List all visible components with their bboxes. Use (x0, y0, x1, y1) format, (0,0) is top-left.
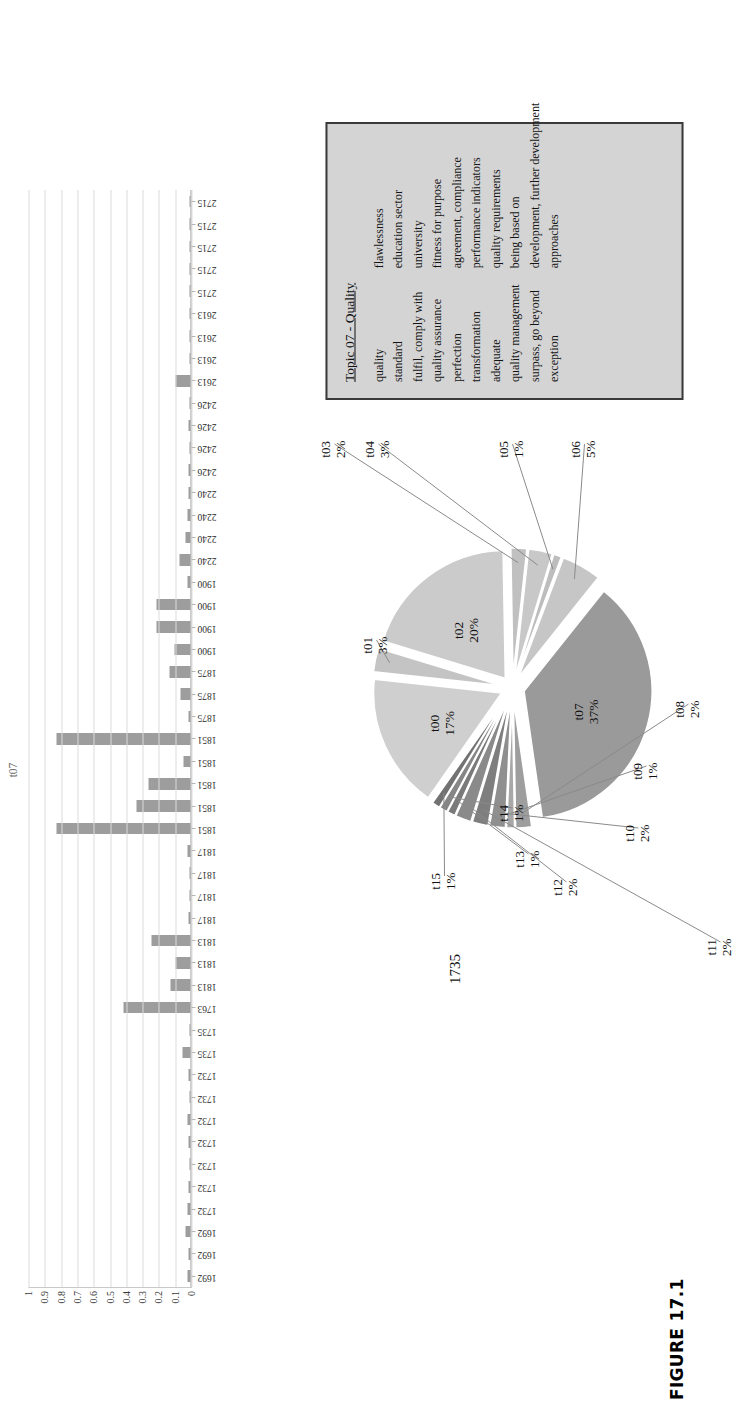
x-axis-tick (191, 649, 195, 650)
bar (151, 935, 190, 947)
pie-slice-label: t151% (428, 873, 457, 890)
bar (185, 1226, 190, 1238)
figure-canvas: t07 00.10.20.30.40.50.60.70.80.91 169216… (0, 0, 749, 1408)
x-axis-tick (191, 1007, 195, 1008)
x-axis-tick (191, 940, 195, 941)
x-axis-tick-label: 1900 (197, 578, 216, 588)
pie-slice-percent: 3% (374, 637, 389, 654)
x-axis-tick-label: 1732 (197, 1205, 216, 1215)
x-axis-tick (191, 492, 195, 493)
pie-slice-percent: 37% (585, 699, 600, 724)
pie-slice-name: t08 (671, 701, 686, 718)
grid-line (158, 190, 159, 1287)
x-axis-tick (191, 1052, 195, 1053)
x-axis-tick (191, 1074, 195, 1075)
bar (189, 196, 190, 208)
x-axis-tick-label: 2240 (197, 556, 216, 566)
pie-leader-line (334, 444, 518, 563)
topic-keyword-box: Topic 07 - Quality qualitystandardfulfil… (325, 122, 683, 400)
grid-line (44, 190, 45, 1287)
y-axis-tick-label: 0.8 (56, 1291, 66, 1304)
x-axis-tick (191, 783, 195, 784)
topic-term: university (408, 103, 427, 269)
grid-line (28, 190, 29, 1287)
x-axis-tick-label: 2426 (197, 399, 216, 409)
pie-slice-name: t05 (495, 441, 510, 458)
x-axis-tick-label: 1817 (197, 892, 216, 902)
topic-term: quality assurance (427, 284, 446, 382)
bar (188, 420, 190, 432)
topic-term: performance indicators (466, 103, 485, 269)
x-axis-tick-label: 2613 (197, 310, 216, 320)
x-axis-tick (191, 470, 195, 471)
x-axis-tick (191, 1119, 195, 1120)
x-axis-tick (191, 246, 195, 247)
x-axis-tick (191, 515, 195, 516)
y-axis-tick-label: 1 (23, 1291, 33, 1296)
pie-slice-name: t09 (629, 763, 644, 780)
x-axis-tick-label: 2426 (197, 466, 216, 476)
pie-slice-name: t06 (567, 441, 582, 458)
figure-caption: FIGURE 17.1 (666, 1278, 686, 1400)
bar (136, 800, 190, 812)
bar (189, 1159, 190, 1171)
bar (189, 330, 190, 342)
x-axis-tick (191, 313, 195, 314)
x-axis-tick (191, 1141, 195, 1142)
x-axis-tick-label: 1692 (197, 1228, 216, 1238)
bar (185, 532, 190, 544)
bar (189, 442, 190, 454)
topic-box-title: Topic 07 - Quality (341, 140, 357, 382)
x-axis-tick-label: 1692 (197, 1250, 216, 1260)
pie-slice-name: t13 (511, 851, 526, 868)
x-axis-tick-label: 1732 (197, 1160, 216, 1170)
x-axis-tick-label: 1817 (197, 914, 216, 924)
x-axis-tick (191, 604, 195, 605)
pie-slice-percent: 2% (332, 441, 347, 458)
topic-term: exception (544, 284, 563, 382)
grid-line (110, 190, 111, 1287)
bar (183, 756, 190, 768)
x-axis-tick-label: 2715 (197, 220, 216, 230)
x-axis-tick (191, 1097, 195, 1098)
pie-slice-percent: 20% (465, 618, 480, 643)
pie-leader-line (443, 793, 444, 876)
pie-slice-label: t032% (318, 441, 347, 458)
x-axis-tick (191, 403, 195, 404)
bar (187, 576, 190, 588)
bar (189, 285, 190, 297)
pie-svg (300, 418, 730, 1018)
x-axis-tick-label: 1851 (197, 735, 216, 745)
bar (187, 1114, 190, 1126)
pie-slice-percent: 2% (636, 825, 651, 842)
bar (56, 823, 190, 835)
bar (189, 890, 190, 902)
pie-slice-label: t0737% (570, 699, 600, 724)
x-axis-tick (191, 873, 195, 874)
bar (175, 375, 190, 387)
topic-box-left-column: qualitystandardfulfil, comply withqualit… (369, 284, 563, 382)
bar (188, 487, 190, 499)
x-axis-tick-label: 2613 (197, 377, 216, 387)
x-axis-tick-label: 1735 (197, 1026, 216, 1036)
grid-line (175, 190, 176, 1287)
x-axis-tick-label: 1900 (197, 601, 216, 611)
pie-chart: 1735 t0017%t013%t0220%t032%t043%t051%t06… (300, 418, 730, 1018)
bar (189, 1024, 190, 1036)
bar (188, 1248, 190, 1260)
x-axis-tick (191, 291, 195, 292)
x-axis-tick-label: 1732 (197, 1093, 216, 1103)
pie-slice-name: t03 (317, 441, 332, 458)
x-axis-tick-label: 1735 (197, 1048, 216, 1058)
y-axis-tick-label: 0.9 (39, 1291, 49, 1304)
x-axis-tick-label: 1851 (197, 825, 216, 835)
bar (156, 599, 190, 611)
topic-term: perfection (447, 284, 466, 382)
pie-slice-name: t07 (570, 703, 585, 720)
x-axis-tick (191, 671, 195, 672)
bar (189, 867, 190, 879)
x-axis-tick (191, 761, 195, 762)
pie-slice-label: t112% (704, 939, 733, 956)
bar (188, 1181, 190, 1193)
pie-slice-name: t02 (450, 622, 465, 639)
